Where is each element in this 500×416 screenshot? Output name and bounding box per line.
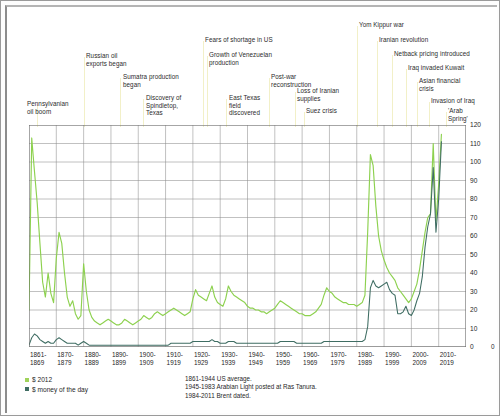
annotation-label: Fears of shortage in US [205,36,273,44]
legend-swatch [25,378,29,382]
annotation-label: Pennsylvanian oil boom [27,100,69,115]
annotation-leader-line [295,92,296,127]
x-axis-tick-label: 1880- 1889 [85,351,101,367]
annotation-label: Invasion of Iraq [431,97,475,105]
x-axis-tick-label: 2000- 2009 [412,351,428,367]
annotation-label: Sumatra production began [123,73,179,88]
annotation-label: Post-war reconstruction [271,73,311,88]
source-note-line: 1984-2011 Brent dated. [185,392,317,400]
x-axis-tick-label: 1970- 1979 [330,351,346,367]
x-axis-tick-label: 1940- 1949 [249,351,265,367]
y-axis-tick-label: 80 [470,195,492,202]
legend-label: $ 2012 [32,376,52,383]
legend: $ 2012$ money of the day [25,376,88,395]
y-axis-tick-label: 20 [470,306,492,313]
x-axis-tick-label: 1870- 1879 [57,351,73,367]
annotation-leader-line [392,55,393,127]
annotation-leader-line [226,99,227,127]
source-note-line: 1945-1983 Arabian Light posted at Ras Ta… [185,383,317,391]
series-line-real-2012 [29,134,441,325]
annotation-leader-line [120,78,121,127]
x-axis-tick-label: 1980- 1989 [358,351,374,367]
annotation-leader-line [377,41,378,127]
line-chart-svg [29,125,466,347]
annotation-leader-line [417,82,418,127]
annotation-label: Suez crisis [306,107,337,115]
legend-label: $ money of the day [32,386,88,393]
image-frame: Pennsylvanian oil boomRussian oil export… [0,0,500,416]
annotation-leader-line [203,41,204,127]
annotation-label: Russian oil exports began [86,52,127,67]
x-axis-tick-label: 1900- 1909 [139,351,155,367]
x-axis-tick-label: 1930- 1939 [221,351,237,367]
annotation-leader-line [207,56,208,127]
legend-item: $ 2012 [25,376,88,383]
annotation-label: Discovery of Spindletop, Texas [146,94,181,117]
chart-panel: Pennsylvanian oil boomRussian oil export… [5,5,497,413]
annotation-label: 'Arab Spring' [448,107,468,122]
y-axis-tick-label: 90 [470,177,492,184]
annotation-leader-line [84,57,85,127]
x-axis-tick-label: 1910- 1919 [167,351,183,367]
annotation-leader-line [143,99,144,127]
plot-area [29,125,466,347]
annotation-leader-line [357,26,358,127]
y-axis-tick-label: 0 [470,343,492,350]
x-axis-tick-label: 1960- 1969 [303,351,319,367]
y-axis-tick-label: 10 [470,325,492,332]
annotation-leader-line [406,69,407,127]
legend-item: $ money of the day [25,386,88,393]
annotation-label: Asian financial crisis [419,77,460,92]
y-axis-tick-label: 60 [470,232,492,239]
annotation-label: Yom Kippur war [359,21,404,29]
x-axis-tick-label: 2010- 2019 [440,351,456,367]
annotation-label: Growth of Venezuelan production [209,51,272,66]
y-axis-tick-label: 100 [470,158,492,165]
y-axis-tick-label: 50 [470,251,492,258]
annotation-leader-line [429,102,430,127]
annotation-leader-line [269,78,270,127]
y-axis-zero-label: 0 [491,343,495,351]
y-axis-tick-label: 40 [470,269,492,276]
source-note-line: 1861-1944 US average. [185,375,317,383]
x-axis-tick-label: 1920- 1929 [194,351,210,367]
legend-swatch [25,387,29,391]
annotation-label: Loss of Iranian supplies [297,87,339,102]
source-notes: 1861-1944 US average.1945-1983 Arabian L… [185,375,317,400]
y-axis-tick-label: 120 [470,121,492,128]
y-axis-tick-label: 70 [470,214,492,221]
annotation-label: Iranian revolution [379,36,428,44]
x-axis-tick-label: 1890- 1899 [112,351,128,367]
x-axis-tick-label: 1950- 1959 [276,351,292,367]
y-axis-tick-label: 110 [470,140,492,147]
annotation-label: Netback pricing introduced [394,50,470,58]
x-axis-tick-label: 1861- 1869 [30,351,46,367]
annotation-label: Iraq invaded Kuwait [408,64,464,72]
x-axis-tick-label: 1990- 1999 [385,351,401,367]
series-lines [29,134,441,345]
y-axis-tick-label: 30 [470,288,492,295]
annotation-label: East Texas field discovered [229,94,260,117]
